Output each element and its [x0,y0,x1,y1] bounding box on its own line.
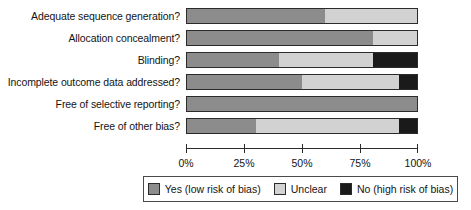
stacked-bar [186,118,418,134]
bar-segment-yes [187,31,373,45]
risk-of-bias-chart: Adequate sequence generation?Allocation … [0,0,471,210]
bar-segment-yes [187,119,256,133]
bar-segment-no [399,119,417,133]
bar-row: Free of other bias? [0,118,471,134]
bar-segment-no [399,75,417,89]
stacked-bar [186,96,418,112]
bar-segment-unclear [373,31,417,45]
axis-tick-label: 25% [233,157,254,169]
stacked-bar [186,74,418,90]
bar-row: Free of selective reporting? [0,96,471,112]
bar-row-label: Free of other bias? [94,120,180,132]
bar-row: Allocation concealment? [0,30,471,46]
axis-tick [244,144,245,153]
bar-segment-unclear [302,75,399,89]
axis-tick [186,144,187,153]
legend-label: Yes (low risk of bias) [165,183,261,195]
chart-legend: Yes (low risk of bias)UnclearNo (high ri… [143,176,458,202]
bar-segment-yes [187,9,325,23]
axis-tick [302,144,303,153]
legend-swatch-icon [340,183,352,195]
bar-segment-unclear [325,9,417,23]
legend-swatch-icon [274,183,286,195]
axis-tick [417,144,418,153]
legend-entry: Yes (low risk of bias) [148,183,261,195]
bar-row: Adequate sequence generation? [0,8,471,24]
bar-row-label: Allocation concealment? [68,32,180,44]
bar-row-label: Blinding? [138,54,180,66]
bar-row-label: Incomplete outcome data addressed? [8,76,180,88]
bar-segment-no [373,53,417,67]
legend-entry: No (high risk of bias) [340,183,453,195]
legend-entry: Unclear [274,183,327,195]
bar-row: Blinding? [0,52,471,68]
legend-label: Unclear [291,183,327,195]
legend-swatch-icon [148,183,160,195]
bar-row-label: Adequate sequence generation? [31,10,180,22]
bar-row: Incomplete outcome data addressed? [0,74,471,90]
axis-tick-label: 0% [178,157,193,169]
axis-tick [360,144,361,153]
stacked-bar [186,8,418,24]
legend-label: No (high risk of bias) [357,183,453,195]
axis-tick-label: 75% [349,157,370,169]
plot-area: Adequate sequence generation?Allocation … [0,0,471,145]
bar-segment-yes [187,53,279,67]
bar-row-label: Free of selective reporting? [56,98,180,110]
stacked-bar [186,52,418,68]
bar-segment-unclear [279,53,373,67]
bar-segment-yes [187,75,302,89]
axis-tick-label: 100% [405,157,432,169]
x-axis: 0%25%50%75%100% [186,148,418,149]
bar-segment-yes [187,97,417,111]
stacked-bar [186,30,418,46]
bar-segment-unclear [256,119,399,133]
axis-tick-label: 50% [291,157,312,169]
